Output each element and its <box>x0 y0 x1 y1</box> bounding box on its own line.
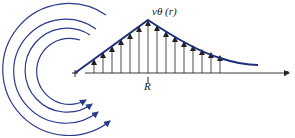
velocity-label: vθ (r) <box>152 5 177 17</box>
velocity-arrows-outer <box>157 26 220 73</box>
velocity-arrows-inner <box>94 21 148 73</box>
vortex-diagram <box>0 0 295 138</box>
core-radius-label: R <box>144 80 151 92</box>
radial-axis-label: r <box>284 66 288 78</box>
velocity-profile-curve <box>75 20 258 73</box>
